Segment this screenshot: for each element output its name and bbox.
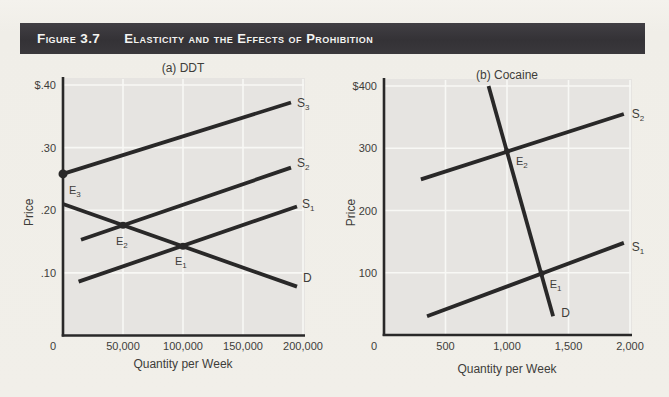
y-tick-label: $.40 xyxy=(35,79,56,91)
x-tick-label: 50,000 xyxy=(106,340,140,352)
figure-header-bar: Figure 3.7 Elasticity and the Effects of… xyxy=(20,23,645,54)
x-axis-title: Quantity per Week xyxy=(457,362,557,376)
series-label-s1: S1 xyxy=(302,197,315,213)
figure-number-label: Figure 3.7 xyxy=(37,31,100,46)
equilibrium-point-e2 xyxy=(120,222,127,229)
figure-title: Elasticity and the Effects of Prohibitio… xyxy=(124,31,373,46)
plot-area xyxy=(384,79,632,335)
x-axis-title: Quantity per Week xyxy=(133,357,233,371)
y-tick-label: $400 xyxy=(353,80,377,92)
x-tick-label: 150,000 xyxy=(223,340,263,352)
y-axis-title: Price xyxy=(22,198,36,226)
x-tick-label: 200,000 xyxy=(283,340,323,352)
x-tick-label: 1,000 xyxy=(493,340,521,352)
equilibrium-point-e1 xyxy=(539,270,545,276)
chart-panel-a: 050,000100,000150,000200,000.10.20.30$.4… xyxy=(22,61,323,371)
y-axis-title: Price xyxy=(344,199,358,227)
series-label-s1: S1 xyxy=(632,240,645,256)
y-tick-label: 100 xyxy=(359,267,377,279)
y-tick-label: .20 xyxy=(41,204,56,216)
x-tick-label: 500 xyxy=(436,340,454,352)
equilibrium-point-e1 xyxy=(180,243,187,250)
panel-title: (a) DDT xyxy=(162,61,205,75)
y-tick-label: .10 xyxy=(41,267,56,279)
x-tick-label: 0 xyxy=(50,340,56,352)
series-label-d: D xyxy=(561,306,570,320)
series-label-d: D xyxy=(303,271,312,285)
x-tick-label: 0 xyxy=(371,340,377,352)
series-label-s2: S2 xyxy=(297,156,310,172)
panel-title: (b) Cocaine xyxy=(476,68,538,82)
chart-panel-b: 05001,0001,5002,000100200300$400(b) Coca… xyxy=(344,68,645,376)
x-tick-label: 2,000 xyxy=(616,340,644,352)
plot-area xyxy=(63,78,305,336)
y-tick-label: 300 xyxy=(359,142,377,154)
equilibrium-point-e2 xyxy=(504,148,510,154)
equilibrium-point-e3 xyxy=(59,169,68,178)
series-label-s2: S2 xyxy=(632,107,645,123)
y-tick-label: 200 xyxy=(359,205,377,217)
x-tick-label: 100,000 xyxy=(163,340,203,352)
series-label-s3: S3 xyxy=(297,96,310,112)
textbook-page: Figure 3.7 Elasticity and the Effects of… xyxy=(0,0,669,397)
y-tick-label: .30 xyxy=(41,142,56,154)
charts-canvas: 050,000100,000150,000200,000.10.20.30$.4… xyxy=(0,0,669,397)
x-tick-label: 1,500 xyxy=(555,340,583,352)
